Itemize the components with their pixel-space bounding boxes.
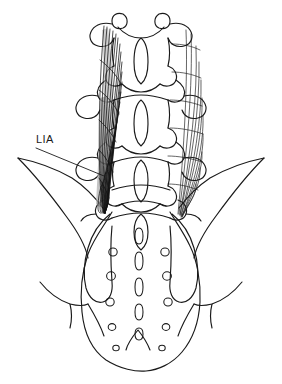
anatomical-figure: LIA [0,0,282,384]
lia-leader-line [36,148,104,176]
vertebra-l2 [76,80,206,154]
vertebra-l5 [112,185,170,206]
leader-line [36,148,104,176]
lia-label: LIA [36,133,54,145]
figure-canvas: LIA [0,0,282,384]
sacrum [81,212,200,371]
